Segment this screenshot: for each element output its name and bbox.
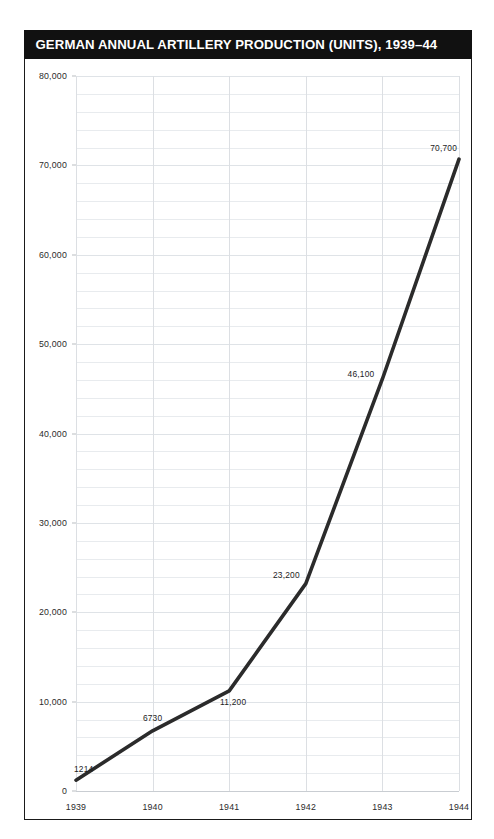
x-axis-line — [76, 791, 459, 792]
data-point-label: 70,700 — [430, 143, 457, 153]
page-title: GERMAN ANNUAL ARTILLERY PRODUCTION (UNIT… — [36, 30, 438, 59]
y-tick-label: 20,000 — [39, 607, 67, 617]
data-point-label: 1214 — [74, 764, 93, 774]
chart-figure: GERMAN ANNUAL ARTILLERY PRODUCTION (UNIT… — [24, 30, 472, 820]
y-tick-label: 50,000 — [39, 339, 67, 349]
data-point-label: 6730 — [143, 713, 162, 723]
y-tick-label: 40,000 — [39, 429, 67, 439]
x-tick-label: 1940 — [142, 802, 162, 812]
y-tick-label: 60,000 — [39, 250, 67, 260]
plot-area: 010,00020,00030,00040,00050,00060,00070,… — [76, 76, 459, 791]
y-tick-label: 0 — [62, 786, 67, 796]
data-point-label: 23,200 — [273, 570, 300, 580]
x-tick-label: 1939 — [66, 802, 86, 812]
line-series — [76, 76, 459, 791]
y-tick-label: 80,000 — [39, 71, 67, 81]
data-point-label: 46,100 — [348, 369, 375, 379]
x-tick-label: 1942 — [296, 802, 316, 812]
y-tick-label: 10,000 — [39, 697, 67, 707]
x-tick-label: 1941 — [219, 802, 239, 812]
chart-title-bar: GERMAN ANNUAL ARTILLERY PRODUCTION (UNIT… — [24, 30, 472, 59]
gridline-vertical — [459, 76, 460, 791]
x-tick-label: 1944 — [449, 802, 469, 812]
y-tick-label: 70,000 — [39, 160, 67, 170]
data-point-label: 11,200 — [220, 697, 246, 707]
y-tick-label: 30,000 — [39, 518, 67, 528]
x-tick-label: 1943 — [372, 802, 392, 812]
